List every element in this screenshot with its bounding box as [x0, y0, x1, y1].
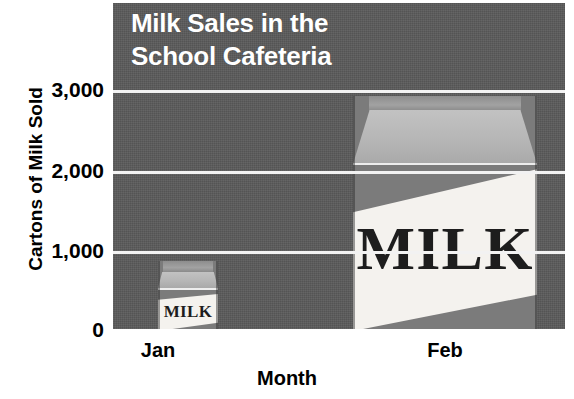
gridline-1000: [113, 251, 565, 254]
bar-jan-shoulder-seam: [158, 288, 218, 290]
y-tick-label-0: 0: [18, 318, 104, 342]
y-tick-label-1000: 1,000: [18, 239, 104, 263]
x-axis-title: Month: [0, 367, 574, 390]
bar-jan-left-edge: [158, 261, 160, 331]
bar-jan-shoulder: [158, 272, 218, 288]
gridline-3000: [113, 90, 565, 93]
chart-figure: Cartons of Milk Sold 3,000 2,000 1,000 0…: [0, 0, 574, 399]
bar-jan-top-flap: [163, 261, 213, 272]
plot-area: Milk Sales in the School Cafeteria MILK: [113, 3, 565, 331]
axis-baseline-0: [113, 329, 565, 331]
bar-jan-right-edge: [216, 261, 218, 331]
bar-feb[interactable]: MILK: [353, 96, 537, 331]
chart-title: Milk Sales in the School Cafeteria: [131, 7, 331, 73]
bar-feb-label-text: MILK: [356, 217, 533, 279]
y-tick-label-2000: 2,000: [18, 159, 104, 183]
bar-feb-shoulder-seam: [353, 163, 537, 165]
y-tick-label-3000: 3,000: [18, 78, 104, 102]
bar-jan-label-text: MILK: [164, 303, 213, 320]
chart-title-line-1: Milk Sales in the: [131, 7, 331, 40]
chart-title-line-2: School Cafeteria: [131, 40, 331, 73]
bar-feb-top-flap: [369, 96, 521, 111]
gridline-2000: [113, 171, 565, 174]
bar-feb-left-edge: [353, 96, 355, 331]
bar-jan[interactable]: MILK: [158, 261, 218, 331]
bar-feb-right-edge: [535, 96, 537, 331]
x-tick-label-feb: Feb: [415, 339, 475, 362]
bar-feb-shoulder: [353, 110, 537, 164]
x-tick-label-jan: Jan: [128, 339, 188, 362]
